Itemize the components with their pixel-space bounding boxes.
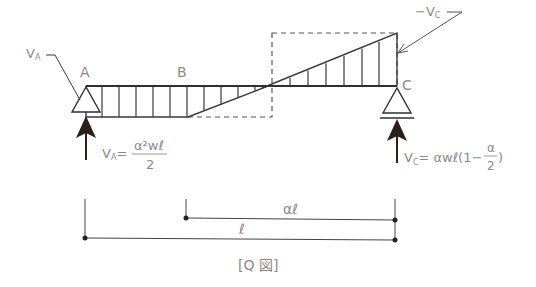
label-va-pointer: VA [26, 46, 41, 62]
shear-force-diagram: A B C VA −VC VA= α²wℓ 2 VC= αwℓ(1− α 2 )… [0, 0, 536, 287]
figure-caption: [Q 図] [238, 257, 278, 273]
label-point-b: B [177, 64, 187, 80]
label-point-c: C [402, 77, 412, 93]
reaction-arrow-a-icon [76, 116, 96, 160]
va-equation: VA= α²wℓ 2 [102, 138, 167, 172]
va-leader-line [46, 55, 80, 100]
svg-text:α²wℓ: α²wℓ [134, 138, 164, 153]
svg-text:2: 2 [146, 157, 154, 172]
svg-text:2: 2 [487, 159, 495, 173]
support-a-pin-icon [72, 87, 100, 112]
svg-text:VC= αwℓ(1−: VC= αwℓ(1− [404, 150, 482, 167]
dimension-l-label: ℓ [238, 221, 245, 237]
svg-text:): ) [498, 150, 503, 165]
label-neg-vc: −VC [415, 4, 441, 20]
negative-shear-outline [86, 86, 268, 117]
vc-leader-arrowhead-icon [398, 44, 408, 53]
positive-shear-hatch [290, 42, 379, 86]
svg-text:VA=: VA= [102, 146, 127, 162]
positive-shear-outline [262, 33, 397, 88]
svg-text:α: α [487, 141, 495, 155]
label-point-a: A [80, 64, 90, 80]
vc-equation: VC= αwℓ(1− α 2 ) [404, 141, 503, 173]
negative-shear-hatch [102, 86, 255, 117]
dimension-al-label: αℓ [283, 201, 298, 217]
